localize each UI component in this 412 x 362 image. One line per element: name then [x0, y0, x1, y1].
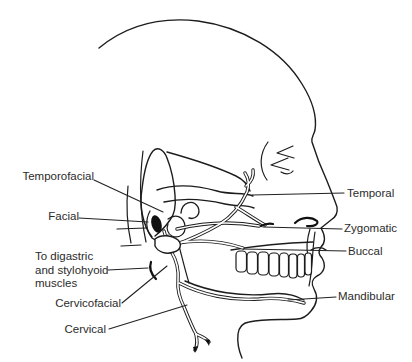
label-cervical: Cervical: [64, 323, 106, 337]
label-temporofacial: Temporofacial: [22, 170, 94, 184]
label-digastric-stylohyoid: To digastric and stylohyoid muscles: [35, 250, 109, 291]
leader-facial: [79, 218, 148, 222]
leader-temporofacial: [94, 180, 163, 212]
label-temporal: Temporal: [347, 187, 394, 201]
nostril: [295, 218, 317, 226]
label-cervicofacial: Cervicofacial: [55, 297, 121, 311]
label-buccal: Buccal: [348, 245, 383, 259]
leader-digastric: [108, 268, 148, 270]
leader-buccal: [243, 249, 346, 251]
eye: [261, 142, 294, 180]
leader-cervicofacial: [122, 266, 167, 303]
diagram-canvas: Temporofacial Facial To digastric and st…: [0, 0, 412, 362]
teeth: [236, 251, 312, 278]
label-mandibular: Mandibular: [338, 290, 395, 304]
leader-temporal: [252, 193, 344, 195]
label-facial: Facial: [48, 210, 79, 224]
head-outline: [99, 20, 337, 358]
leader-zygomatic: [263, 227, 342, 229]
nerve-trunk-node: [155, 236, 180, 253]
label-zygomatic: Zygomatic: [344, 222, 397, 236]
leader-mandibular: [288, 297, 336, 300]
